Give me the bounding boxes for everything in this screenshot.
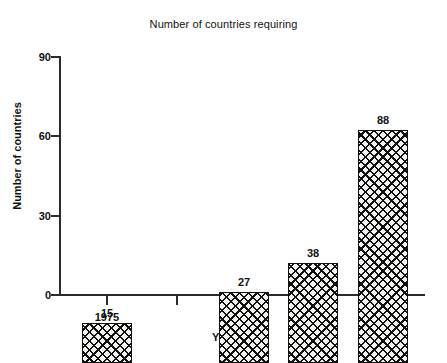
bar-1975[interactable] xyxy=(82,323,132,363)
y-tick-0 xyxy=(51,294,59,296)
y-tick-90 xyxy=(51,56,59,58)
bar-value-1983: 38 xyxy=(278,247,348,259)
y-tick-60 xyxy=(51,135,59,137)
y-tick-label-90: 90 xyxy=(17,51,51,63)
y-tick-label-0: 0 xyxy=(17,289,51,301)
bar-group-1984: 88 xyxy=(358,125,408,363)
y-axis-line xyxy=(59,56,61,296)
bar-1982[interactable] xyxy=(219,292,269,363)
y-tick-30 xyxy=(51,215,59,217)
bar-group-1983: 38 xyxy=(288,125,338,363)
bar-value-1975: 15 xyxy=(72,307,142,319)
bar-value-1984: 88 xyxy=(348,114,418,126)
y-axis-title: Number of countries xyxy=(11,76,23,236)
bar-1984[interactable] xyxy=(358,130,408,363)
bar-group-1982: 27 xyxy=(219,125,269,363)
chart-title: Number of countries requiring xyxy=(0,18,447,30)
bar-1983[interactable] xyxy=(288,263,338,363)
bar-chart: Number of countries requiring 90 60 30 0… xyxy=(0,0,447,363)
bar-value-1982: 27 xyxy=(209,276,279,288)
x-tick-unlabeled xyxy=(176,296,178,305)
bar-group-1975: 15 xyxy=(82,125,132,363)
